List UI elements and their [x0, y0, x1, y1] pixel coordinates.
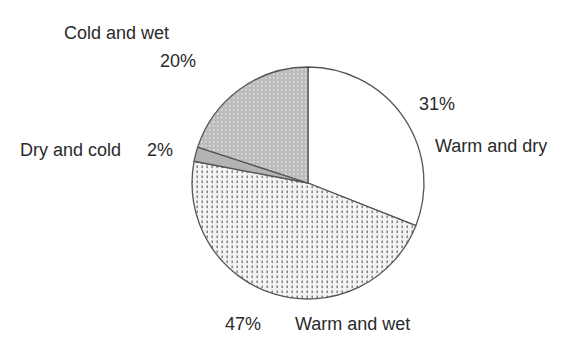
pie-chart-svg [0, 0, 583, 347]
pct-warm-and-dry: 31% [419, 95, 455, 113]
label-dry-and-cold: Dry and cold [20, 141, 121, 159]
pct-warm-and-wet: 47% [225, 315, 261, 333]
label-cold-and-wet: Cold and wet [64, 24, 169, 42]
pct-dry-and-cold: 2% [147, 141, 173, 159]
pie-chart: Cold and wet 20% Dry and cold 2% 31% War… [0, 0, 583, 347]
label-warm-and-wet: Warm and wet [295, 315, 410, 333]
label-warm-and-dry: Warm and dry [435, 137, 547, 155]
pct-cold-and-wet: 20% [160, 52, 196, 70]
pie-slices [192, 67, 424, 299]
